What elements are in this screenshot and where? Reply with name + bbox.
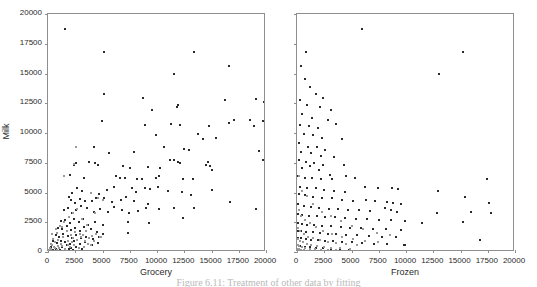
data-point xyxy=(298,142,300,144)
data-point xyxy=(95,233,97,235)
data-point xyxy=(361,242,363,244)
y-tick xyxy=(45,222,48,223)
data-point xyxy=(167,190,169,192)
data-point xyxy=(149,188,151,190)
data-point xyxy=(66,230,68,232)
data-point xyxy=(298,159,300,161)
data-point xyxy=(396,211,398,213)
data-point xyxy=(337,208,339,210)
scatter-panel-grocery: Grocery Milk 025005000750010000125001500… xyxy=(0,0,272,287)
data-point xyxy=(345,175,347,177)
data-point xyxy=(78,221,80,223)
data-point xyxy=(192,178,194,180)
data-point xyxy=(299,186,301,188)
data-point xyxy=(303,205,305,207)
data-point xyxy=(263,101,264,103)
data-point xyxy=(355,218,357,220)
data-point xyxy=(329,174,331,176)
data-point xyxy=(320,249,322,250)
data-point xyxy=(73,163,75,165)
data-point xyxy=(331,233,333,235)
x-tick xyxy=(297,250,298,253)
x-tick-label: 12500 xyxy=(172,256,194,266)
data-point xyxy=(318,207,320,209)
data-point xyxy=(361,28,363,30)
data-point xyxy=(73,244,75,246)
data-point xyxy=(306,243,308,245)
data-point xyxy=(75,162,77,164)
data-point xyxy=(119,177,121,179)
data-point xyxy=(333,156,335,158)
y-tick xyxy=(294,44,297,45)
data-point xyxy=(224,99,226,101)
x-tick xyxy=(324,250,325,253)
data-point xyxy=(169,159,171,161)
y-tick xyxy=(294,252,297,253)
x-tick xyxy=(515,250,516,253)
data-point xyxy=(209,165,211,167)
y-tick xyxy=(294,222,297,223)
data-point xyxy=(163,146,165,148)
data-point xyxy=(299,99,301,101)
data-point xyxy=(133,200,135,202)
data-point xyxy=(356,234,358,236)
data-point xyxy=(309,86,311,88)
data-point xyxy=(76,208,78,210)
data-point xyxy=(404,244,406,246)
data-point xyxy=(386,243,388,245)
data-point xyxy=(400,203,402,205)
data-point xyxy=(303,233,305,235)
x-tick xyxy=(406,250,407,253)
x-tick-label: 17500 xyxy=(476,256,498,266)
data-point xyxy=(384,207,386,209)
data-point xyxy=(297,227,299,229)
data-point xyxy=(324,216,326,218)
data-point xyxy=(55,228,57,230)
data-point xyxy=(318,169,320,171)
data-point xyxy=(303,249,305,250)
data-point xyxy=(60,220,62,222)
data-point xyxy=(86,207,88,209)
data-point xyxy=(339,247,341,249)
data-point xyxy=(404,220,406,222)
data-point xyxy=(181,191,183,193)
data-point xyxy=(122,165,124,167)
data-point xyxy=(330,247,332,249)
data-point xyxy=(323,189,325,191)
data-point xyxy=(113,206,115,208)
data-point xyxy=(262,159,264,161)
data-point xyxy=(182,178,184,180)
data-point xyxy=(56,242,58,244)
x-tick-label: 15000 xyxy=(448,256,470,266)
x-tick-label: 7500 xyxy=(369,256,387,266)
data-point xyxy=(176,106,178,108)
data-point xyxy=(86,224,88,226)
data-point xyxy=(323,246,325,248)
data-point xyxy=(300,151,302,153)
y-tick-label: 15000 xyxy=(20,68,42,78)
data-point xyxy=(182,217,184,219)
data-point xyxy=(315,226,317,228)
data-point xyxy=(390,209,392,211)
data-point xyxy=(319,239,321,241)
data-point xyxy=(332,240,334,242)
data-point xyxy=(358,209,360,211)
data-point xyxy=(64,248,66,250)
data-point xyxy=(321,225,323,227)
data-point xyxy=(106,189,108,191)
data-point xyxy=(307,236,309,238)
x-tick xyxy=(239,250,240,253)
data-point xyxy=(298,209,300,211)
data-point xyxy=(173,207,175,209)
data-point xyxy=(127,232,129,234)
data-point xyxy=(349,227,351,229)
data-point xyxy=(108,152,110,154)
data-point xyxy=(158,175,160,177)
data-point xyxy=(351,225,353,227)
data-point xyxy=(88,161,90,163)
data-point xyxy=(183,148,185,150)
data-point xyxy=(193,207,195,209)
data-point xyxy=(330,215,332,217)
y-tick xyxy=(45,252,48,253)
data-point xyxy=(335,249,337,250)
